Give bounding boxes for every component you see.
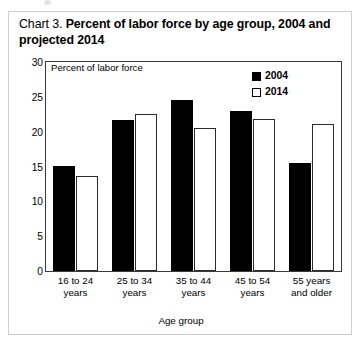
bar-group <box>105 62 164 271</box>
x-category-label: 25 to 34years <box>105 275 164 298</box>
y-axis-tick-labels: 051015202530 <box>9 61 43 272</box>
bar-2004-35-to-44-years <box>171 100 193 271</box>
y-tick-label: 25 <box>9 91 43 102</box>
chart-legend: 20042014 <box>252 69 322 101</box>
y-tick-label: 30 <box>9 57 43 68</box>
scan-artifact <box>44 0 51 5</box>
legend-label: 2014 <box>265 87 288 97</box>
bar-2004-45-to-54-years <box>230 111 252 271</box>
bar-2014-16-to-24-years <box>76 176 98 271</box>
legend-item-2014: 2014 <box>252 85 322 99</box>
legend-item-2004: 2004 <box>252 69 322 83</box>
bar-group <box>164 62 223 271</box>
x-category-label: 45 to 54years <box>223 275 282 298</box>
chart-title-main: Percent of labor force by age group, 200… <box>19 17 330 47</box>
bar-2014-55-years-and-older <box>312 124 334 271</box>
x-axis-category-labels: 16 to 24years25 to 34years35 to 44years4… <box>46 275 341 303</box>
x-category-label: 16 to 24years <box>46 275 105 298</box>
chart-title-prefix: Chart 3. <box>19 17 62 31</box>
y-tick-label: 0 <box>9 266 43 277</box>
legend-label: 2004 <box>265 71 288 81</box>
y-tick-label: 5 <box>9 231 43 242</box>
y-tick-label: 20 <box>9 126 43 137</box>
bar-2014-45-to-54-years <box>253 119 275 271</box>
x-category-label: 55 yearsand older <box>282 275 341 298</box>
bar-2014-25-to-34-years <box>135 114 157 271</box>
bar-2014-35-to-44-years <box>194 128 216 271</box>
chart-title: Chart 3. Percent of labor force by age g… <box>19 17 347 48</box>
bar-group <box>46 62 105 271</box>
legend-swatch-icon <box>252 72 261 81</box>
bar-2004-55-years-and-older <box>289 163 311 271</box>
bar-2004-25-to-34-years <box>112 120 134 271</box>
chart-card: Chart 3. Percent of labor force by age g… <box>8 11 352 335</box>
bar-2004-16-to-24-years <box>53 166 75 271</box>
y-tick-label: 10 <box>9 196 43 207</box>
x-category-label: 35 to 44years <box>164 275 223 298</box>
x-axis-title: Age group <box>9 315 352 326</box>
y-tick-label: 15 <box>9 161 43 172</box>
legend-swatch-icon <box>252 88 261 97</box>
